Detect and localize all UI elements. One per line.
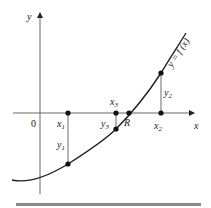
y1-point: [65, 161, 70, 166]
x3-label: x3: [109, 96, 118, 109]
y1-label: y1: [56, 139, 65, 152]
y2-point: [158, 70, 163, 75]
x1-label: x1: [56, 118, 65, 131]
curve-label: y = f (x): [164, 35, 193, 70]
x2-label: x2: [153, 120, 162, 133]
x2-point: [158, 110, 163, 115]
root-label: R: [123, 117, 130, 128]
y-axis-label: y: [26, 11, 32, 22]
y3-point: [113, 126, 118, 131]
x-axis-label: x: [193, 120, 199, 131]
x1-point: [65, 110, 70, 115]
bottom-rule: [16, 203, 201, 206]
function-curve: [12, 33, 186, 181]
secant-method-diagram: y x 0 x1 y1 x2 y2 x3 y3 R y = f (x): [0, 0, 211, 208]
root-point: [126, 110, 131, 115]
x3-point: [113, 110, 118, 115]
y3-label: y3: [100, 118, 109, 131]
y2-label: y2: [163, 87, 172, 100]
origin-label: 0: [31, 118, 36, 129]
